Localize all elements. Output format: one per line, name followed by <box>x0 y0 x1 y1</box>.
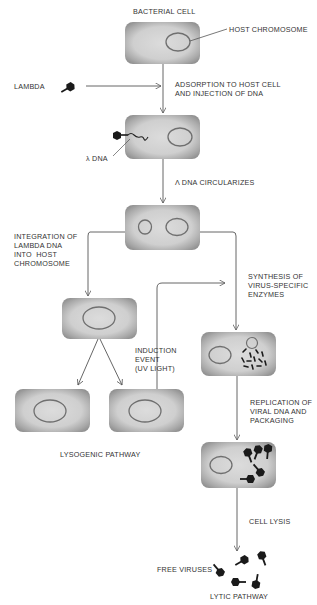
infected-cell <box>113 115 200 159</box>
lytic-pathway-label: LYTIC PATHWAY <box>210 592 268 601</box>
lysogenic-pathway-label: LYSOGENIC PATHWAY <box>60 450 140 459</box>
host-chromosome-label: HOST CHROMOSOME <box>229 25 308 34</box>
free-viruses-icon <box>211 550 270 590</box>
bacterial-cell-label: BACTERIAL CELL <box>133 7 195 16</box>
adsorption-label: ADSORPTION TO HOST CELL AND INJECTION OF… <box>175 80 281 98</box>
free-viruses-label: FREE VIRUSES <box>157 565 212 574</box>
synthesis-label: SYNTHESIS OF VIRUS-SPECIFIC ENZYMES <box>248 272 308 299</box>
replication-label: REPLICATION OF VIRAL DNA AND PACKAGING <box>250 398 312 425</box>
lysogen-cell <box>62 298 137 339</box>
daughter-lysogen-left <box>15 389 90 432</box>
enzyme-synthesis-cell <box>201 332 276 376</box>
cell-lysis-label: CELL LYSIS <box>249 517 291 526</box>
bacterial-cell <box>125 22 227 64</box>
packaging-cell <box>201 442 276 488</box>
integration-label: INTEGRATION OF LAMBDA DNA INTO HOST CHRO… <box>14 232 77 268</box>
lambda-dna-label: λ DNA <box>86 154 108 163</box>
daughter-lysogen-right <box>109 389 184 432</box>
induction-label: INDUCTION EVENT (UV LIGHT) <box>135 346 177 373</box>
lambda-label: LAMBDA <box>14 82 45 91</box>
circularized-dna-cell <box>125 205 200 250</box>
lambda-phage-icon <box>59 81 76 95</box>
circularizes-label: λ DNA CIRCULARIZES <box>175 178 255 187</box>
